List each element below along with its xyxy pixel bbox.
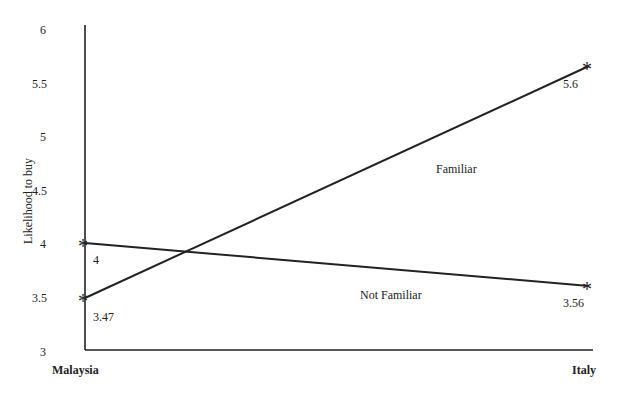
y-tick-label: 5.5 [32,77,47,91]
y-tick-label: 6 [40,23,46,37]
x-category-label: Italy [572,363,596,377]
series-familiar: * * 3.47 5.6 Familiar [78,58,592,324]
series-label: Familiar [436,162,477,176]
y-tick-label: 3 [40,345,46,359]
star-marker-icon: * [582,58,592,80]
star-marker-icon: * [78,235,88,257]
star-marker-icon: * [78,290,88,312]
y-tick-label: 5 [40,130,46,144]
data-label: 5.6 [563,77,578,91]
series-label: Not Familiar [360,288,422,302]
x-category-label: Malaysia [52,363,99,377]
line-chart: 6 5.5 5 4.5 4 3.5 3 Likelihood to buy Ma… [0,0,618,400]
y-axis-label: Likelihood to buy [21,158,35,244]
series-line [85,243,589,286]
y-tick-label: 4 [40,237,46,251]
data-label: 3.56 [563,296,584,310]
data-label: 4 [93,253,99,267]
series-not-familiar: * * 4 3.56 Not Familiar [78,235,592,310]
series-line [85,66,589,298]
data-label: 3.47 [93,310,114,324]
y-tick-label: 3.5 [32,291,47,305]
